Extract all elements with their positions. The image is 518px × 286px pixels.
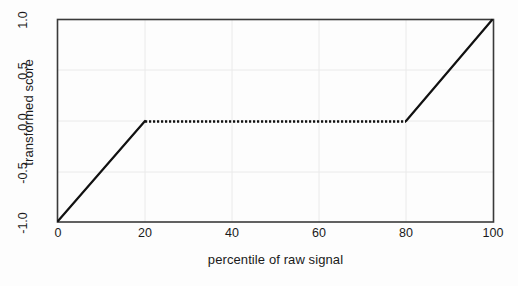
chart-figure: transformed score percentile of raw sign… — [0, 0, 518, 286]
plot-area — [0, 0, 518, 286]
series-transform-lower — [58, 121, 145, 221]
